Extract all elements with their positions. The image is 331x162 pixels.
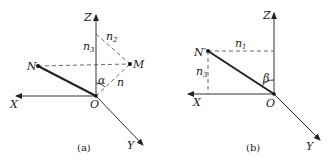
figure-a: Z X Y O N M n3 n2 n α (a) [9, 11, 145, 153]
x-label-a: X [9, 98, 19, 111]
n3-label-b: n3 [196, 65, 208, 79]
diagram: Z X Y O N M n3 n2 n α (a) Z X Y O N′ n1 [0, 0, 331, 162]
dashed-N-M [38, 64, 130, 66]
caption-a: (a) [77, 142, 91, 153]
figure-b: Z X Y O N′ n1 n3 β (b) [188, 9, 320, 153]
y-axis-a [96, 96, 143, 145]
n3-label-a: n3 [83, 40, 95, 54]
M-label: M [132, 58, 145, 71]
caption-b: (b) [246, 142, 260, 153]
z-label-b: Z [262, 9, 271, 22]
point-O-b [272, 92, 276, 96]
n1-label: n1 [235, 37, 247, 51]
x-label-b: X [192, 96, 202, 109]
origin-label-a: O [90, 98, 99, 111]
vector-ON [38, 66, 96, 96]
y-axis-b [274, 94, 320, 140]
n-label: n [117, 76, 124, 89]
origin-label-b: O [266, 97, 275, 110]
beta-label: β [262, 72, 269, 85]
N-prime-label: N′ [193, 46, 207, 59]
alpha-label: α [98, 74, 106, 87]
y-label-b: Y [306, 140, 315, 153]
z-label-a: Z [83, 11, 92, 24]
point-N-prime [206, 49, 210, 53]
n2-label: n2 [106, 30, 118, 44]
N-label: N [26, 60, 37, 73]
y-label-a: Y [127, 139, 136, 152]
point-M [128, 62, 132, 66]
